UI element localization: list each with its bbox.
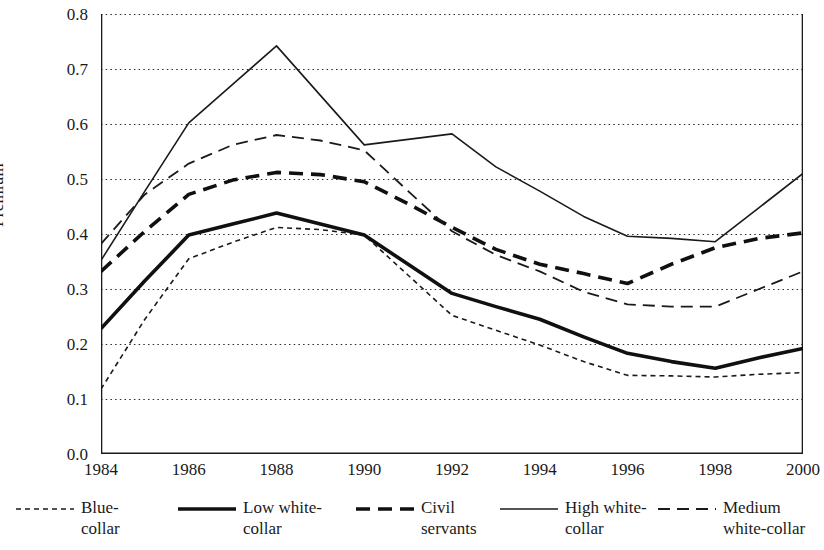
legend-item[interactable]: Low white- collar — [176, 497, 322, 539]
y-tick-label: 0.5 — [44, 171, 88, 188]
legend-label: Low white- collar — [243, 497, 322, 539]
y-tick-label: 0.2 — [44, 336, 88, 353]
y-tick-label: 0.8 — [44, 6, 88, 23]
x-tick-label: 1992 — [414, 461, 490, 478]
legend-swatch-thick-dashed — [354, 499, 416, 519]
x-tick-label: 1996 — [590, 461, 666, 478]
y-tick-label: 0.4 — [44, 226, 88, 243]
plot-area — [101, 14, 803, 454]
series-line-medium-white-collar — [101, 135, 803, 307]
legend-swatch-fine-dotted — [14, 499, 76, 519]
legend-item[interactable]: Blue- collar — [14, 497, 120, 539]
x-tick-label: 1998 — [677, 461, 753, 478]
legend-swatch-thin-dashed — [656, 499, 718, 519]
y-tick-label: 0.0 — [44, 446, 88, 463]
x-tick-label: 1988 — [239, 461, 315, 478]
legend-item[interactable]: High white- collar — [498, 497, 647, 539]
x-tick-label: 1990 — [326, 461, 402, 478]
y-axis-title: Premium — [0, 115, 8, 275]
x-tick-label: 1994 — [502, 461, 578, 478]
legend-swatch-thick-solid — [176, 499, 238, 519]
y-tick-label: 0.3 — [44, 281, 88, 298]
legend-item[interactable]: Medium white-collar — [656, 497, 805, 539]
y-tick-label: 0.7 — [44, 61, 88, 78]
x-tick-label: 1984 — [63, 461, 139, 478]
legend-label: Civil servants — [421, 497, 477, 539]
y-tick-label: 0.1 — [44, 391, 88, 408]
legend-item[interactable]: Civil servants — [354, 497, 477, 539]
x-axis-tick-labels: 198419861988199019921994199619982000 — [101, 461, 803, 487]
legend-label: Medium white-collar — [723, 497, 805, 539]
chart-legend: Blue- collarLow white- collarCivil serva… — [6, 497, 813, 545]
series-line-high-white-collar — [101, 46, 803, 261]
y-axis-tick-labels: 0.00.10.20.30.40.50.60.70.8 — [40, 14, 88, 454]
legend-label: High white- collar — [565, 497, 647, 539]
series-line-low-white-collar — [101, 213, 803, 368]
chart-svg — [101, 14, 803, 454]
y-tick-label: 0.6 — [44, 116, 88, 133]
x-tick-label: 1986 — [151, 461, 227, 478]
legend-swatch-thin-solid — [498, 499, 560, 519]
x-tick-label: 2000 — [765, 461, 824, 478]
legend-label: Blue- collar — [81, 497, 120, 539]
series-line-civil-servants — [101, 172, 803, 283]
